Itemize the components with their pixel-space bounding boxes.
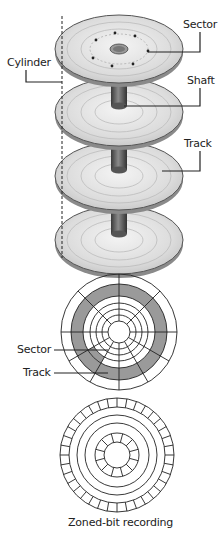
platter-stack [26, 15, 200, 278]
label-track-2: Track [23, 367, 51, 379]
caption-zoned-bit: Zoned-bit recording [68, 517, 173, 529]
platter-1 [55, 15, 183, 87]
inner-zone-sectors [96, 434, 139, 477]
label-track: Track [184, 138, 212, 150]
cylinder-leader [26, 70, 62, 82]
label-sector: Sector [183, 19, 217, 31]
label-cylinder: Cylinder [7, 57, 51, 69]
label-sector-2: Sector [17, 344, 51, 356]
zoned-bit-diagram [60, 398, 174, 512]
label-shaft: Shaft [187, 75, 215, 87]
